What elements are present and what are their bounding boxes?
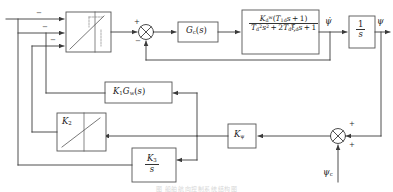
figure-caption: 图 船舶航向控制系统结构图 [0,184,393,192]
integrator-numerator: 1 [356,20,365,29]
input-sign-mid: − [42,24,48,31]
forward-sum-plus: + [134,19,140,26]
forward-sum-minus: − [135,38,141,45]
block-diagram-canvas: − − − + − + + Gc(s) Kdw(T1ds + 1) Td2s2 … [0,0,393,192]
integrator-denominator: s [356,29,365,39]
integrator-label: 1 s [356,20,365,39]
input-sign-top: − [36,10,42,17]
washout-label: K1Gw(s) [113,87,145,97]
plant-transfer-function: Kdw(T1ds + 1) Td2s2 + 2Tdξds + 1 [249,15,318,32]
command-sum-plus-top: + [349,121,355,128]
k3-denominator: s [145,164,159,174]
plant-denominator: Td2s2 + 2Tdξds + 1 [249,23,318,32]
plant-numerator: Kdw(T1ds + 1) [249,15,318,23]
command-sum-plus-bottom: + [349,142,355,149]
signal-psi-dot: ψ̇ [325,17,332,26]
signal-psi-output: ψ [377,17,384,26]
controller-label: Gc(s) [186,26,207,36]
kpsi-label: Kψ [234,130,245,140]
signal-psi-command: ψc [323,168,333,178]
input-sign-low: − [50,37,56,44]
k3-label: K3 s [145,154,159,174]
k2-label: K2 [62,117,72,127]
k3-numerator: K3 [145,154,159,164]
